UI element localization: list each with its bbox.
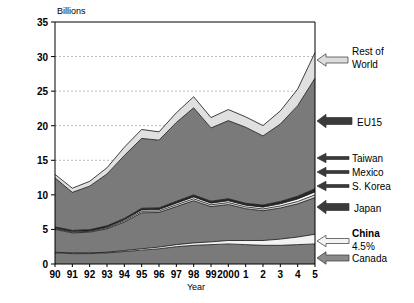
- callout-label-canada: Canada: [352, 253, 387, 264]
- y-tick-label: 15: [37, 155, 49, 166]
- y-tick-label: 10: [37, 190, 49, 201]
- callout-label-japan: Japan: [354, 203, 381, 214]
- callout-label-rest-of-world-line2: World: [352, 59, 378, 70]
- x-tick-label: 99: [205, 269, 217, 280]
- x-tick-label: 5: [312, 269, 318, 280]
- callout-label-china: China: [352, 228, 380, 239]
- x-tick-label: 93: [101, 269, 113, 280]
- x-axis-title: Year: [187, 282, 205, 292]
- y-tick-label: 5: [42, 224, 48, 235]
- y-axis-unit-label: Billions: [57, 6, 86, 16]
- y-tick-label: 20: [37, 121, 49, 132]
- callout-label-mexico: Mexico: [352, 167, 384, 178]
- x-tick-label: 97: [171, 269, 183, 280]
- x-tick-label: 92: [84, 269, 96, 280]
- x-tick-label: 90: [49, 269, 61, 280]
- y-tick-label: 35: [37, 17, 49, 28]
- callout-label-taiwan: Taiwan: [352, 153, 383, 164]
- callout-label-china-pct: 4.5%: [352, 241, 375, 252]
- x-tick-label: 98: [188, 269, 200, 280]
- x-tick-label: 91: [67, 269, 79, 280]
- y-tick-label: 30: [37, 52, 49, 63]
- chart-container: 05101520253035 9091929394959697989920001…: [0, 0, 414, 303]
- callout-label-rest-of-world-line1: Rest of: [352, 46, 384, 57]
- x-tick-label: 96: [153, 269, 165, 280]
- x-tick-label: 2000: [217, 269, 240, 280]
- x-tick-label: 2: [260, 269, 266, 280]
- x-tick-label: 4: [295, 269, 301, 280]
- callout-label-eu15: EU15: [357, 117, 382, 128]
- x-tick-label: 94: [119, 269, 131, 280]
- y-tick-label: 0: [42, 259, 48, 270]
- x-tick-label: 3: [278, 269, 284, 280]
- stacked-area-chart: 05101520253035 9091929394959697989920001…: [0, 0, 414, 303]
- x-tick-label: 1: [243, 269, 249, 280]
- y-tick-label: 25: [37, 86, 49, 97]
- x-tick-label: 95: [136, 269, 148, 280]
- callout-label-s-korea: S. Korea: [352, 181, 391, 192]
